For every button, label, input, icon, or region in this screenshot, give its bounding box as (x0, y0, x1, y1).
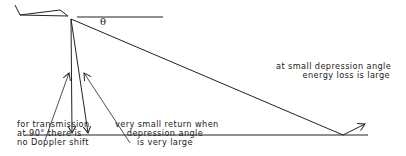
depression-angle-symbol: θ (100, 16, 106, 27)
energy-loss-annotation: at small depression angle energy loss is… (276, 62, 390, 80)
vertical-beam-arrow (71, 19, 72, 133)
small-return-line-3: is very large (115, 138, 215, 147)
small-return-annotation: very small return when depression angle … (115, 120, 215, 147)
doppler-line-3: no Doppler shift (17, 138, 90, 147)
steep-beam-arrow (71, 19, 88, 133)
energy-loss-line-2: energy loss is large (276, 71, 390, 80)
aircraft-icon (15, 5, 68, 16)
doppler-annotation: for transmission at 90° there is no Dopp… (17, 120, 90, 147)
reflected-beam-arrow (343, 124, 365, 135)
